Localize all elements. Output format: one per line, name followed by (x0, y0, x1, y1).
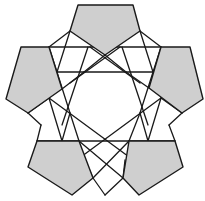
pentagon-bottom-right (123, 141, 183, 195)
pentagon-right (149, 47, 203, 113)
pentagon-left (6, 47, 62, 113)
pentagon-bottom-left (28, 141, 93, 195)
pentagon-diagram (0, 0, 205, 201)
